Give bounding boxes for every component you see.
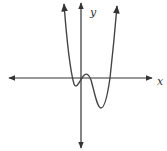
y-axis-label: y [89,6,97,19]
quartic-curve [64,4,117,108]
x-axis-label: x [157,75,164,88]
function-graph: x y [0,0,167,151]
